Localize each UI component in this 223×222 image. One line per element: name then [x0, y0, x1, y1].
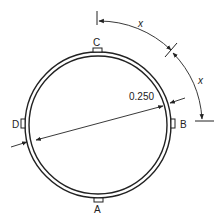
tab-a — [94, 198, 103, 202]
label-b: B — [180, 119, 187, 130]
thickness-arrow-right — [170, 98, 185, 103]
label-d: D — [12, 119, 19, 130]
thickness-arrow-left — [11, 142, 27, 147]
angle-arc-1 — [99, 21, 171, 50]
diameter-line — [36, 106, 163, 140]
label-a: A — [94, 204, 101, 215]
angle-arc-2 — [173, 53, 202, 119]
tab-b — [171, 119, 175, 128]
label-c: C — [93, 37, 100, 48]
ring-diagram: C A D B 0.250 x x — [0, 0, 223, 222]
outer-circle — [25, 52, 171, 198]
angle-label-2: x — [197, 75, 204, 86]
dimension-label: 0.250 — [129, 91, 154, 102]
inner-circle — [29, 56, 167, 194]
tab-c — [93, 48, 102, 52]
tab-d — [21, 119, 25, 128]
angle-label-1: x — [137, 18, 144, 29]
